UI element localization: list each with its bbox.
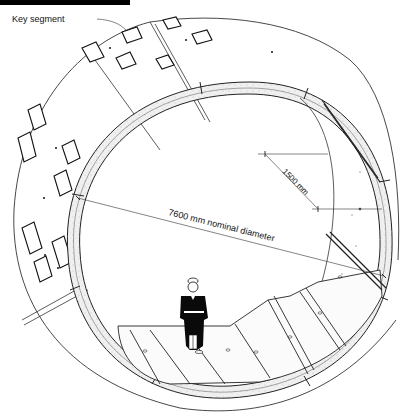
- diameter-dimension: [76, 196, 386, 278]
- segment-outer-surface: [22, 22, 210, 325]
- invert-segments: [118, 270, 382, 384]
- label-width: 1500 mm: [281, 167, 311, 197]
- label-diameter: 7600 mm nominal diameter: [168, 207, 276, 243]
- label-key-segment: Key segment: [12, 14, 65, 24]
- bolt-pockets: [18, 17, 212, 282]
- tunnel-ring-drawing: Key segment 7600 mm nominal diameter 150…: [0, 0, 406, 418]
- key-segment-leader: [97, 19, 126, 30]
